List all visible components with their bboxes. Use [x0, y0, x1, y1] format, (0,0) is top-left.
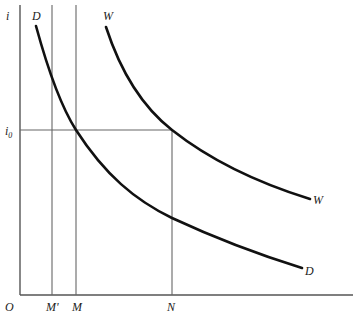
- origin-label: O: [5, 300, 14, 314]
- w-curve-end-label: W: [313, 193, 324, 207]
- i0-label: i0: [5, 124, 12, 140]
- m-prime-label: M': [45, 300, 59, 314]
- d-curve-end-label: D: [304, 264, 314, 278]
- d-curve-top-label: D: [31, 9, 41, 23]
- y-axis-label: i: [6, 9, 9, 23]
- m-label: M: [71, 300, 83, 314]
- n-label: N: [166, 300, 176, 314]
- interest-rate-diagram: i O i0 M' M N D D W W: [0, 0, 353, 326]
- w-curve: [106, 27, 310, 199]
- w-curve-top-label: W: [103, 9, 114, 23]
